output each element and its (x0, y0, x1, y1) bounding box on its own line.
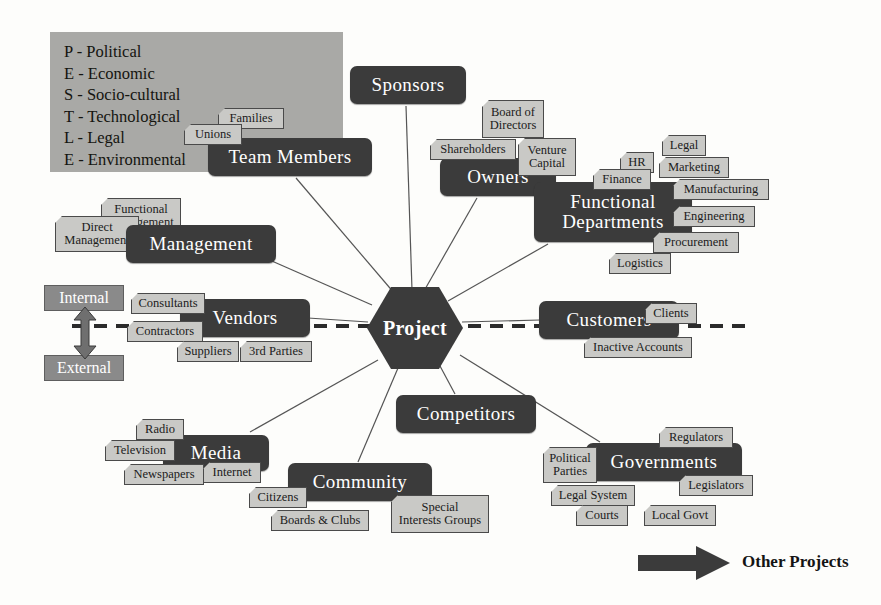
other-projects-arrow-icon (638, 546, 730, 580)
sub-node-finance[interactable]: Finance (593, 169, 651, 190)
sub-node-engineer[interactable]: Engineering (673, 206, 755, 227)
primary-node-managem[interactable]: Management (126, 225, 276, 263)
connector-customers (462, 320, 540, 322)
stakeholder-diagram: P - Political E - Economic S - Socio-cul… (0, 0, 881, 605)
sub-node-marketing[interactable]: Marketing (659, 157, 729, 178)
sub-node-internet[interactable]: Internet (203, 462, 261, 483)
sub-node-polparties[interactable]: Political Parties (543, 447, 597, 483)
project-label: Project (383, 317, 447, 340)
sub-node-regulators[interactable]: Regulators (659, 427, 733, 448)
connector-media (250, 360, 378, 432)
sub-node-boardofdir[interactable]: Board of Directors (482, 100, 544, 138)
project-center-node[interactable]: Project (367, 287, 463, 369)
connector-vendors (308, 318, 368, 322)
sub-node-sharehold[interactable]: Shareholders (430, 139, 516, 160)
sub-node-legislators[interactable]: Legislators (679, 475, 753, 496)
sub-node-courts[interactable]: Courts (576, 505, 628, 526)
sub-node-newspapers[interactable]: Newspapers (124, 464, 204, 485)
sub-node-boardsclubs[interactable]: Boards & Clubs (271, 510, 369, 531)
connector-sponsors (406, 106, 412, 290)
sub-node-inactive[interactable]: Inactive Accounts (584, 337, 692, 358)
pestle-row-political: P - Political (64, 41, 343, 63)
pestle-row-economic: E - Economic (64, 63, 343, 85)
sub-node-citizens[interactable]: Citizens (249, 487, 307, 508)
sub-node-legal[interactable]: Legal (662, 135, 706, 156)
sub-node-procure[interactable]: Procurement (653, 232, 739, 253)
sub-node-ventcap[interactable]: Venture Capital (518, 138, 576, 176)
connector-funcdept (448, 244, 548, 301)
sub-node-sig[interactable]: Special Interests Groups (391, 495, 489, 533)
sub-node-radio[interactable]: Radio (136, 419, 184, 440)
primary-node-sponsors[interactable]: Sponsors (350, 66, 466, 104)
sub-node-legalsystem[interactable]: Legal System (551, 485, 635, 506)
sub-node-localgovt[interactable]: Local Govt (644, 505, 716, 526)
internal-external-arrow-icon (68, 306, 102, 360)
sub-node-unions[interactable]: Unions (184, 124, 242, 145)
sub-node-contractors[interactable]: Contractors (127, 321, 203, 342)
sub-node-thirdpart[interactable]: 3rd Parties (240, 341, 312, 362)
pestle-row-sociocultural: S - Socio-cultural (64, 84, 343, 106)
sub-node-logistics[interactable]: Logistics (609, 253, 671, 274)
primary-node-competit[interactable]: Competitors (396, 395, 536, 433)
connector-community (358, 368, 398, 462)
connector-managem (265, 258, 372, 305)
sub-node-clients[interactable]: Clients (645, 303, 697, 324)
connector-competit (440, 366, 455, 394)
pestle-row-technological: T - Technological (64, 106, 343, 128)
sub-node-suppliers[interactable]: Suppliers (177, 341, 239, 362)
connector-team (296, 178, 395, 294)
connector-owners (424, 198, 477, 291)
sub-node-consultants[interactable]: Consultants (131, 293, 205, 314)
sub-node-manufact[interactable]: Manufacturing (673, 179, 769, 200)
other-projects-label: Other Projects (742, 552, 849, 572)
sub-node-television[interactable]: Television (105, 440, 175, 461)
